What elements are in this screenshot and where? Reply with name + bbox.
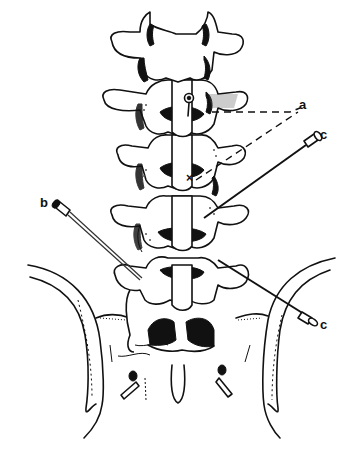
- vertebra-l1: [111, 12, 243, 82]
- pelvis-right: [263, 258, 335, 438]
- label-c-upper: c: [320, 128, 327, 141]
- vertebra-l3: [117, 135, 245, 196]
- pelvis-left: [28, 265, 103, 438]
- label-b: b: [40, 196, 48, 209]
- needle-c-upper: [204, 130, 323, 218]
- label-a: a: [299, 98, 306, 111]
- x-mark: ×: [186, 172, 193, 184]
- label-c-lower: c: [320, 318, 327, 331]
- spine-drawing: [0, 0, 362, 473]
- vertebra-l4: [111, 196, 248, 252]
- sacrum: [96, 314, 268, 403]
- vertebra-l2: [103, 80, 248, 137]
- spine-illustration: a c b c ×: [0, 0, 362, 473]
